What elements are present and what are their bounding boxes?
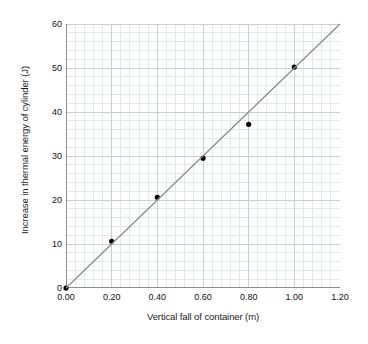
y-tick-label: 60	[36, 19, 62, 29]
y-tick-label: 20	[36, 195, 62, 205]
y-tick-label: 50	[36, 63, 62, 73]
y-tick-label: 40	[36, 107, 62, 117]
x-tick-label: 0.80	[226, 292, 272, 302]
y-axis-title: Increase in thermal energy of cylinder (…	[16, 0, 34, 300]
chart-figure: Increase in thermal energy of cylinder (…	[0, 0, 368, 344]
trend-line	[66, 24, 340, 288]
data-point	[246, 122, 251, 127]
x-tick-label: 0.40	[134, 292, 180, 302]
plot-area	[66, 24, 340, 288]
x-axis-title: Vertical fall of container (m)	[66, 311, 340, 322]
x-tick-label: 0.60	[180, 292, 226, 302]
data-layer	[66, 24, 340, 288]
y-tick-label: 30	[36, 151, 62, 161]
y-axis-tick-labels: 0102030405060	[34, 24, 62, 288]
x-tick-label: 0.00	[43, 292, 89, 302]
x-tick-label: 0.20	[89, 292, 135, 302]
x-axis-tick-labels: 0.000.200.400.600.801.001.20	[66, 292, 340, 306]
y-tick-label: 10	[36, 239, 62, 249]
x-tick-label: 1.20	[317, 292, 363, 302]
x-tick-label: 1.00	[271, 292, 317, 302]
